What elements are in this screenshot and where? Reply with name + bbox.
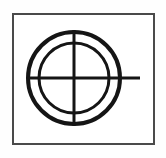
figure-canvas — [0, 0, 166, 158]
crosshair-target-diagram — [0, 0, 166, 158]
